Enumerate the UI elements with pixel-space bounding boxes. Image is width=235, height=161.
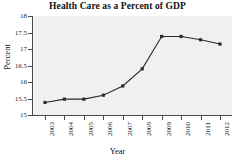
x-tick-label-2011: 2011: [204, 122, 212, 136]
data-point-2004: [63, 98, 66, 101]
data-point-2012: [218, 42, 221, 45]
data-point-2005: [82, 98, 85, 101]
y-tick-mark: [28, 99, 32, 100]
y-axis-title: Percent: [2, 32, 12, 82]
data-point-2011: [199, 38, 202, 41]
y-tick-mark: [28, 115, 32, 116]
y-tick-mark: [28, 49, 32, 50]
y-tick-label: 15: [1, 111, 27, 119]
y-tick-label: 18: [1, 12, 27, 20]
x-tick-label-2008: 2008: [145, 122, 153, 136]
y-tick-mark: [28, 33, 32, 34]
x-axis-title: Year: [0, 146, 235, 156]
y-axis-line: [32, 16, 33, 116]
plot-area: [33, 16, 232, 115]
x-tick-label-2010: 2010: [184, 122, 192, 136]
x-tick-mark: [220, 116, 221, 120]
x-tick-label-2007: 2007: [126, 122, 134, 136]
data-point-2006: [102, 94, 105, 97]
y-tick-mark: [28, 66, 32, 67]
data-series-svg: [33, 16, 232, 115]
x-tick-label-2009: 2009: [165, 122, 173, 136]
x-tick-mark: [201, 116, 202, 120]
x-tick-label-2004: 2004: [67, 122, 75, 136]
x-axis-line: [32, 115, 232, 116]
x-tick-mark: [162, 116, 163, 120]
chart-title: Health Care as a Percent of GDP: [0, 1, 235, 11]
data-point-2003: [43, 101, 46, 104]
data-point-2007: [121, 84, 124, 87]
line-series-health-care: [45, 36, 220, 102]
data-point-2009: [160, 35, 163, 38]
y-tick-mark: [28, 82, 32, 83]
data-point-2010: [180, 35, 183, 38]
x-tick-label-2005: 2005: [87, 122, 95, 136]
x-tick-mark: [181, 116, 182, 120]
x-tick-mark: [123, 116, 124, 120]
x-tick-mark: [142, 116, 143, 120]
chart-figure: Health Care as a Percent of GDP 1515.516…: [0, 0, 235, 161]
x-tick-mark: [103, 116, 104, 120]
x-tick-label-2006: 2006: [106, 122, 114, 136]
data-point-2008: [141, 67, 144, 70]
x-tick-label-2012: 2012: [223, 122, 231, 136]
x-tick-label-2003: 2003: [48, 122, 56, 136]
x-tick-mark: [64, 116, 65, 120]
y-tick-label: 15.5: [1, 95, 27, 103]
x-tick-mark: [84, 116, 85, 120]
y-tick-mark: [28, 16, 32, 17]
x-tick-mark: [45, 116, 46, 120]
data-point-markers: [43, 35, 221, 104]
